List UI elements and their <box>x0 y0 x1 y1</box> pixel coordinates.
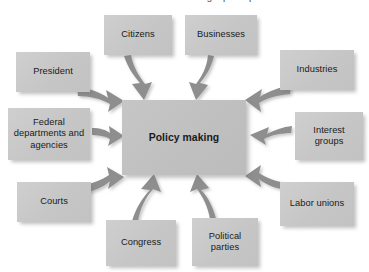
caption-text: who might participate in each of these <box>176 0 339 2</box>
arrow-political <box>190 174 216 219</box>
node-president[interactable]: President <box>16 52 90 92</box>
node-citizens[interactable]: Citizens <box>104 15 172 55</box>
node-labor-unions-label: Labor unions <box>287 198 347 209</box>
node-businesses[interactable]: Businesses <box>185 15 257 55</box>
node-citizens-label: Citizens <box>118 29 157 40</box>
node-courts-label: Courts <box>37 196 71 207</box>
node-political-parties[interactable]: Political parties <box>192 218 258 266</box>
node-interest-groups[interactable]: Interest groups <box>295 112 363 160</box>
node-interest-groups-label: Interest groups <box>295 125 363 148</box>
node-federal-departments[interactable]: Federal departments and agencies <box>8 108 90 160</box>
node-congress[interactable]: Congress <box>106 220 176 266</box>
arrow-congress <box>132 174 161 221</box>
node-president-label: President <box>30 66 76 77</box>
node-industries-label: Industries <box>294 64 341 75</box>
arrow-businesses <box>189 55 214 100</box>
node-policy-making[interactable]: Policy making <box>122 100 246 175</box>
node-political-parties-label: Political parties <box>192 231 258 254</box>
node-businesses-label: Businesses <box>194 29 248 40</box>
diagram-canvas: who might participate in each of these <box>0 0 369 272</box>
node-industries[interactable]: Industries <box>280 50 354 90</box>
node-federal-departments-label: Federal departments and agencies <box>8 117 90 151</box>
cropped-caption-strip: who might participate in each of these <box>0 0 369 11</box>
node-congress-label: Congress <box>118 237 164 248</box>
arrow-federal <box>92 126 124 146</box>
node-courts[interactable]: Courts <box>17 182 91 222</box>
node-labor-unions[interactable]: Labor unions <box>280 182 354 226</box>
node-policy-making-label: Policy making <box>146 132 223 143</box>
arrow-citizens <box>124 55 152 100</box>
arrow-interest <box>250 126 292 145</box>
